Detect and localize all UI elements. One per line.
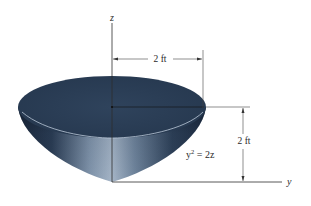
z-axis-label: z (109, 12, 114, 23)
height-dimension-label: 2 ft (238, 136, 251, 146)
equation-rhs: = 2z (194, 149, 215, 160)
paraboloid-diagram: 2 ft 2 ft z y y2 = 2z (0, 0, 311, 206)
equation-label: y2 = 2z (186, 148, 215, 160)
radius-dimension-label: 2 ft (154, 54, 167, 64)
arrowhead-up-icon (242, 108, 245, 113)
arrowhead-down-icon (242, 176, 245, 181)
arrowhead-right-icon (197, 58, 202, 61)
y-axis-label: y (286, 176, 292, 187)
arrowhead-left-icon (113, 58, 118, 61)
